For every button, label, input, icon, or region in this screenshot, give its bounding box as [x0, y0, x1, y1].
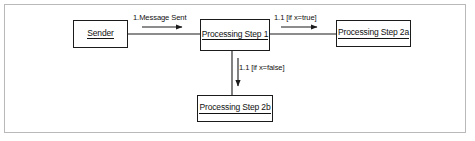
- diagram-canvas: Processing Step 1 link --> Processing St…: [0, 0, 475, 141]
- node-sender-label: Sender: [87, 29, 114, 40]
- node-processing-step-1[interactable]: Processing Step 1: [200, 19, 270, 51]
- node-processing-step-2a[interactable]: Processing Step 2a: [336, 20, 411, 47]
- node-sender[interactable]: Sender: [73, 20, 128, 48]
- connector-sender-step1: [128, 27, 200, 34]
- node-processing-step-2b-label: Processing Step 2b: [199, 103, 270, 114]
- node-processing-step-1-label: Processing Step 1: [202, 30, 268, 41]
- edge-label-if-false: 1.1 [if x=false]: [239, 63, 284, 72]
- node-processing-step-2b[interactable]: Processing Step 2b: [197, 95, 273, 122]
- connector-step1-step2b: [232, 51, 238, 95]
- node-processing-step-2a-label: Processing Step 2a: [338, 28, 409, 39]
- edge-label-message-sent: 1.Message Sent: [133, 13, 186, 22]
- connector-step1-step2a: [270, 27, 336, 34]
- edge-label-if-true: 1.1 [if x=true]: [274, 13, 317, 22]
